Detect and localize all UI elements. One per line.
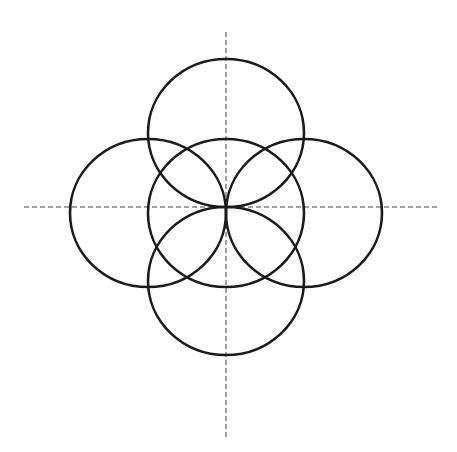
diagram-canvas xyxy=(0,0,457,452)
circles-diagram xyxy=(0,0,457,452)
